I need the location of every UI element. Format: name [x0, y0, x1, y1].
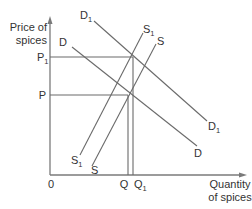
x-axis-arrow-icon: [239, 173, 247, 178]
demand-curve-d: [72, 47, 197, 146]
y-axis-arrow-icon: [48, 16, 53, 24]
y-axis-label-line1: Price of: [10, 21, 48, 33]
curve-label-s1-top-sub: 1: [150, 29, 154, 38]
curve-label-d-bottom: D: [194, 147, 202, 159]
curve-label-d1-bottom: D1: [208, 120, 220, 135]
curve-label-d1-top-main: D: [80, 9, 88, 21]
origin-label: 0: [48, 178, 54, 190]
curve-label-s-top: S: [157, 35, 164, 47]
curve-label-s1-bottom: S1: [71, 154, 83, 169]
price-label-p1-sub: 1: [44, 57, 48, 66]
curve-label-s1-top: S1: [143, 23, 155, 38]
supply-curve-s: [92, 44, 156, 166]
price-label-p: P: [39, 89, 46, 101]
curve-label-d1-bottom-sub: 1: [216, 126, 220, 135]
quantity-label-q1: Q1: [134, 178, 147, 193]
curve-label-d-top: D: [59, 36, 67, 48]
curve-label-s1-bottom-sub: 1: [78, 160, 82, 169]
x-axis-label-line1: Quantity: [210, 178, 251, 190]
quantity-label-q1-sub: 1: [143, 184, 147, 193]
curve-label-s-bottom: S: [91, 164, 98, 176]
curve-label-d1-bottom-main: D: [208, 120, 216, 132]
price-label-p1-main: P: [37, 51, 44, 63]
supply-demand-diagram: Price of spices Quantity of spices 0 P1 …: [0, 0, 252, 209]
quantity-label-q: Q: [120, 178, 129, 190]
curve-label-s1-top-main: S: [143, 23, 150, 35]
x-axis-label-line2: of spices: [208, 191, 252, 203]
price-label-p1: P1: [37, 51, 49, 66]
y-axis-label-line2: spices: [16, 34, 48, 46]
curve-label-d1-top: D1: [80, 9, 92, 24]
curve-label-s1-bottom-main: S: [71, 154, 78, 166]
curve-label-d1-top-sub: 1: [88, 15, 92, 24]
